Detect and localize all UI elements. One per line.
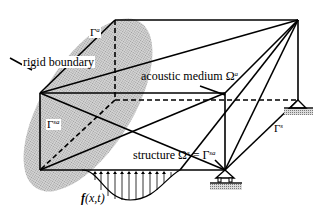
load-function-label: f(x,t) <box>81 192 105 204</box>
pin-support-right <box>284 100 313 115</box>
roller-support-bottom <box>210 170 242 190</box>
diagram-canvas <box>0 0 331 210</box>
gamma-sa-label: Γsa <box>46 119 61 130</box>
gamma-a-label: Γa <box>89 27 101 38</box>
structure-label: structure Ωs = Γsa <box>133 149 216 161</box>
rigid-boundary-label: rigid boundary <box>22 56 95 68</box>
acoustic-structure-diagram: Γa rigid boundary Γsa acoustic medium Ωa… <box>0 0 331 210</box>
acoustic-medium-label: acoustic medium Ωa <box>141 70 238 82</box>
gamma-s-label: Γs <box>274 123 283 134</box>
